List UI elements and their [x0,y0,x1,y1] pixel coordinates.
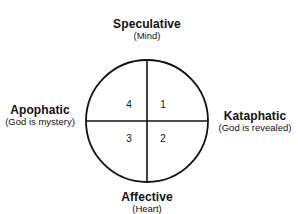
quadrant-1-number: 1 [160,99,166,110]
quadrant-diagram: Speculative (Mind) Apophatic (God is mys… [0,0,298,214]
quadrant-4-number: 4 [126,99,132,110]
quadrant-3-number: 3 [126,133,132,144]
circle-graphic: 1 2 3 4 [0,0,298,214]
quadrant-2-number: 2 [160,133,166,144]
